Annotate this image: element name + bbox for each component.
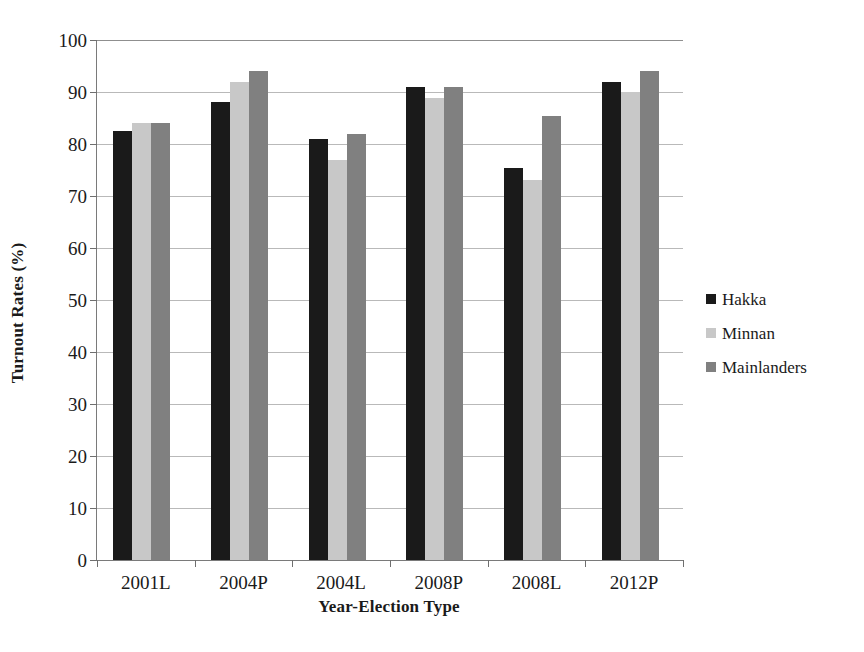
x-tick-label: 2004L	[316, 573, 366, 592]
chart-legend: HakkaMinnanMainlanders	[706, 282, 856, 384]
bars-layer	[97, 40, 683, 560]
y-tick-mark	[90, 560, 97, 561]
y-tick-mark	[90, 300, 97, 301]
legend-item-hakka[interactable]: Hakka	[706, 282, 856, 316]
legend-swatch-icon	[706, 328, 716, 338]
y-tick-label: 100	[59, 31, 88, 50]
y-tick-label: 20	[68, 447, 87, 466]
y-tick-mark	[90, 508, 97, 509]
bar[interactable]	[425, 98, 444, 560]
y-tick-label: 80	[68, 135, 87, 154]
bar[interactable]	[621, 92, 640, 560]
y-tick-label: 70	[68, 187, 87, 206]
y-tick-mark	[90, 196, 97, 197]
legend-swatch-icon	[706, 294, 716, 304]
y-tick-label: 30	[68, 395, 87, 414]
bar[interactable]	[523, 180, 542, 560]
legend-item-minnan[interactable]: Minnan	[706, 316, 856, 350]
x-tick-mark	[683, 560, 684, 567]
bar[interactable]	[504, 168, 523, 560]
legend-label: Mainlanders	[722, 359, 807, 376]
x-tick-label: 2008P	[415, 573, 464, 592]
y-axis-title: Turnout Rates (%)	[8, 53, 34, 573]
x-tick-label: 2012P	[610, 573, 659, 592]
x-axis-title: Year-Election Type	[96, 597, 682, 617]
legend-item-mainlanders[interactable]: Mainlanders	[706, 350, 856, 384]
y-tick-label: 10	[68, 499, 87, 518]
x-tick-mark	[488, 560, 489, 567]
x-tick-mark	[195, 560, 196, 567]
x-tick-label: 2008L	[512, 573, 562, 592]
y-tick-label: 40	[68, 343, 87, 362]
x-tick-label: 2001L	[121, 573, 171, 592]
bar[interactable]	[347, 134, 366, 560]
bar-group	[602, 40, 659, 560]
bar[interactable]	[602, 82, 621, 560]
bar[interactable]	[542, 116, 561, 560]
bar-group	[504, 40, 561, 560]
bar[interactable]	[113, 131, 132, 560]
bar[interactable]	[151, 123, 170, 560]
legend-label: Minnan	[722, 325, 775, 342]
y-tick-label: 0	[78, 551, 88, 570]
y-tick-mark	[90, 144, 97, 145]
y-tick-mark	[90, 404, 97, 405]
y-tick-mark	[90, 352, 97, 353]
bar-group	[113, 40, 170, 560]
y-tick-label: 90	[68, 83, 87, 102]
x-tick-mark	[585, 560, 586, 567]
bar-group	[211, 40, 268, 560]
bar[interactable]	[211, 102, 230, 560]
plot-area: 0102030405060708090100 2001L2004P2004L20…	[96, 40, 682, 560]
x-tick-mark	[390, 560, 391, 567]
legend-label: Hakka	[722, 291, 766, 308]
bar[interactable]	[640, 71, 659, 560]
bar[interactable]	[328, 160, 347, 560]
bar[interactable]	[406, 87, 425, 560]
bar-group	[406, 40, 463, 560]
bar-group	[309, 40, 366, 560]
bar[interactable]	[444, 87, 463, 560]
bar[interactable]	[230, 82, 249, 560]
x-tick-label: 2004P	[219, 573, 268, 592]
x-tick-mark	[97, 560, 98, 567]
y-tick-mark	[90, 248, 97, 249]
y-tick-label: 50	[68, 291, 87, 310]
bar[interactable]	[309, 139, 328, 560]
x-tick-mark	[292, 560, 293, 567]
bar[interactable]	[132, 123, 151, 560]
bar[interactable]	[249, 71, 268, 560]
y-tick-mark	[90, 456, 97, 457]
y-tick-mark	[90, 92, 97, 93]
legend-swatch-icon	[706, 362, 716, 372]
bar-chart: Turnout Rates (%) 0102030405060708090100…	[0, 0, 864, 652]
y-tick-label: 60	[68, 239, 87, 258]
y-tick-mark	[90, 40, 97, 41]
